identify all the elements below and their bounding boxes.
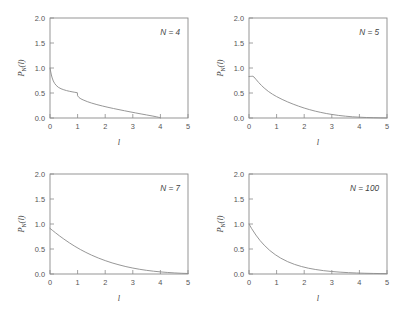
y-axis-title: PN(l): [17, 59, 27, 77]
y-axis-title: PN(l): [216, 59, 226, 77]
panel-n4-content: 0123450.00.51.01.52.0lPN(l)N = 4: [17, 14, 190, 147]
y-tick-label: 1.5: [35, 195, 45, 204]
x-tick-label: 4: [158, 122, 162, 131]
panel-n7: 0123450.00.51.01.52.0lPN(l)N = 7: [0, 156, 199, 312]
x-axis-title: l: [118, 138, 121, 147]
y-tick-label: 1.0: [234, 64, 244, 73]
svg-text:PN(l): PN(l): [17, 59, 27, 77]
x-tick-label: 2: [302, 278, 306, 287]
x-tick-label: 1: [275, 122, 279, 131]
y-tick-label: 1.5: [35, 39, 45, 48]
y-tick-label: 0.0: [35, 114, 45, 123]
svg-text:PN(l): PN(l): [17, 215, 27, 233]
y-tick-label: 1.0: [234, 220, 244, 229]
y-tick-label: 1.0: [35, 220, 45, 229]
x-tick-label: 0: [48, 278, 52, 287]
x-axis-title: l: [317, 138, 320, 147]
x-tick-label: 2: [103, 278, 107, 287]
y-tick-label: 1.0: [35, 64, 45, 73]
x-tick-label: 1: [76, 122, 80, 131]
x-tick-label: 0: [48, 122, 52, 131]
y-tick-label: 0.0: [234, 114, 244, 123]
x-tick-label: 4: [357, 278, 361, 287]
y-axis-title: PN(l): [216, 215, 226, 233]
x-axis-title: l: [317, 294, 320, 303]
panel-n4: 0123450.00.51.01.52.0lPN(l)N = 4: [0, 0, 199, 156]
panel-annotation: N = 5: [359, 28, 379, 37]
x-tick-label: 5: [385, 122, 389, 131]
x-tick-label: 0: [247, 122, 251, 131]
y-tick-label: 0.5: [35, 245, 45, 254]
x-tick-label: 3: [330, 122, 334, 131]
y-tick-label: 2.0: [35, 14, 45, 23]
x-tick-label: 5: [186, 278, 190, 287]
x-tick-label: 1: [76, 278, 80, 287]
y-tick-label: 1.5: [234, 195, 244, 204]
x-tick-label: 3: [131, 122, 135, 131]
panel-annotation: N = 4: [160, 28, 180, 37]
x-tick-label: 4: [357, 122, 361, 131]
panel-annotation: N = 7: [160, 184, 180, 193]
panel-n100: 0123450.00.51.01.52.0lPN(l)N = 100: [199, 156, 399, 312]
panel-n7-content: 0123450.00.51.01.52.0lPN(l)N = 7: [17, 170, 190, 303]
x-tick-label: 0: [247, 278, 251, 287]
panel-annotation: N = 100: [350, 184, 379, 193]
svg-text:PN(l): PN(l): [216, 215, 226, 233]
data-curve: [50, 228, 188, 273]
y-tick-label: 0.5: [234, 89, 244, 98]
y-tick-label: 0.0: [234, 270, 244, 279]
x-tick-label: 3: [330, 278, 334, 287]
panel-n5: 0123450.00.51.01.52.0lPN(l)N = 5: [199, 0, 399, 156]
panel-n5-content: 0123450.00.51.01.52.0lPN(l)N = 5: [216, 14, 389, 147]
y-axis-title: PN(l): [17, 215, 27, 233]
figure-panel-grid: 0123450.00.51.01.52.0lPN(l)N = 4 0123450…: [0, 0, 399, 312]
plot-n7: 0123450.00.51.01.52.0lPN(l)N = 7: [0, 156, 199, 312]
y-tick-label: 0.5: [234, 245, 244, 254]
data-curve: [249, 76, 387, 118]
y-tick-label: 0.0: [35, 270, 45, 279]
plot-n100: 0123450.00.51.01.52.0lPN(l)N = 100: [199, 156, 399, 312]
x-tick-label: 1: [275, 278, 279, 287]
x-tick-label: 3: [131, 278, 135, 287]
plot-n4: 0123450.00.51.01.52.0lPN(l)N = 4: [0, 0, 199, 156]
data-curve: [249, 224, 387, 274]
x-tick-label: 5: [385, 278, 389, 287]
x-tick-label: 2: [103, 122, 107, 131]
x-axis-title: l: [118, 294, 121, 303]
svg-text:PN(l): PN(l): [216, 59, 226, 77]
x-tick-label: 2: [302, 122, 306, 131]
y-tick-label: 0.5: [35, 89, 45, 98]
y-tick-label: 1.5: [234, 39, 244, 48]
x-tick-label: 5: [186, 122, 190, 131]
x-tick-label: 4: [158, 278, 162, 287]
y-tick-label: 2.0: [35, 170, 45, 179]
y-tick-label: 2.0: [234, 170, 244, 179]
panel-n100-content: 0123450.00.51.01.52.0lPN(l)N = 100: [216, 170, 389, 303]
y-tick-label: 2.0: [234, 14, 244, 23]
plot-n5: 0123450.00.51.01.52.0lPN(l)N = 5: [199, 0, 399, 156]
data-curve: [50, 68, 160, 118]
